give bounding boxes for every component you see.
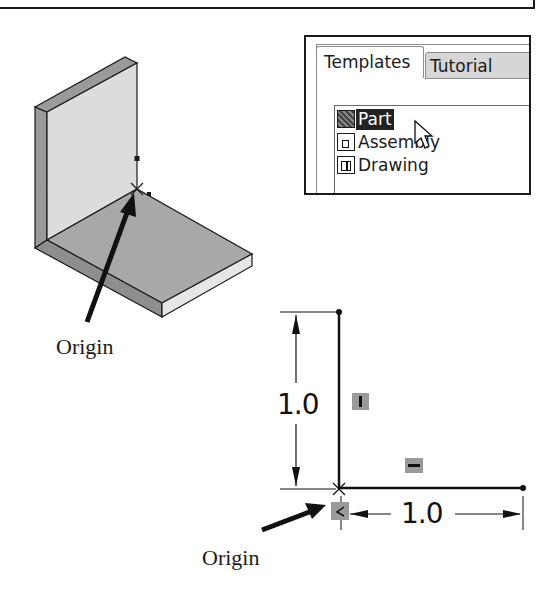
horizontal-dimension-value[interactable]: 1.0: [400, 497, 444, 530]
part-icon: [337, 110, 355, 128]
vertical-relation-icon[interactable]: [352, 393, 369, 410]
origin-arrow-2: [262, 511, 312, 530]
list-item-drawing[interactable]: Drawing: [337, 155, 431, 176]
coincident-relation-icon[interactable]: [331, 502, 349, 520]
origin-caption-model: Origin: [56, 334, 113, 360]
vertical-plate-left-edge: [35, 107, 47, 248]
mouse-cursor-icon: [413, 119, 435, 151]
new-document-dialog: Tutorial Templates Part Assembly Drawing: [304, 35, 531, 195]
horizontal-relation-icon[interactable]: [405, 458, 423, 473]
midpoint-marker: [135, 156, 140, 161]
tab-tutorial[interactable]: Tutorial: [425, 52, 531, 79]
origin-caption-sketch: Origin: [202, 545, 259, 571]
vertical-dimension-value[interactable]: 1.0: [276, 388, 320, 421]
list-item-part[interactable]: Part: [337, 109, 394, 130]
drawing-icon: [337, 156, 355, 174]
list-item-label: Drawing: [356, 155, 431, 176]
list-item-label: Part: [356, 109, 394, 130]
assembly-icon: [337, 133, 355, 151]
tab-templates[interactable]: Templates: [316, 46, 424, 78]
